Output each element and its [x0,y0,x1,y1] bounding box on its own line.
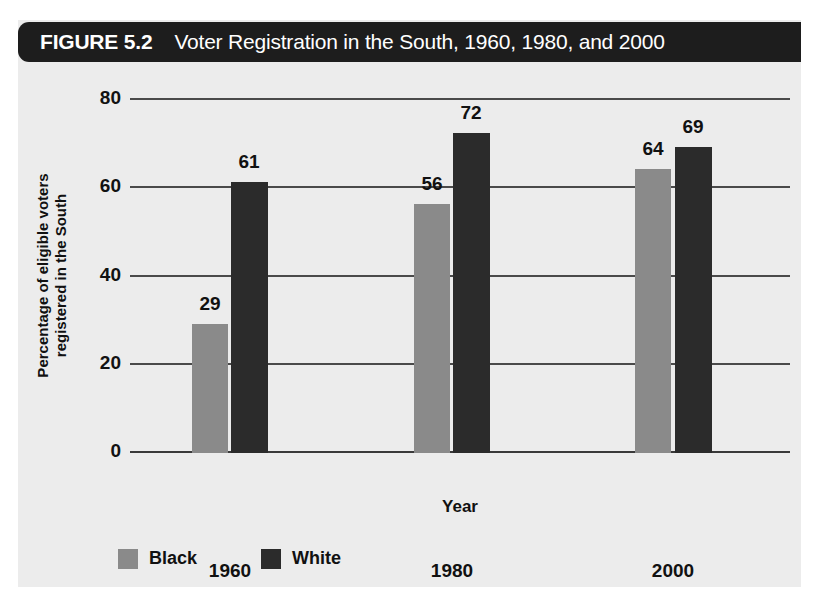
bar-label-2000-white: 69 [682,116,703,138]
bar-2000-black [635,169,671,453]
bar-1960-white [231,182,268,453]
x-tick-label-1980: 1980 [431,560,473,582]
bar-label-1960-white: 61 [238,151,259,173]
bar-1960-black [192,324,228,453]
y-tick-label-80: 80 [100,87,121,109]
y-tick-label-0: 0 [110,440,121,462]
figure-title-bar: FIGURE 5.2 Voter Registration in the Sou… [18,22,801,62]
legend-label-white: White [292,548,341,569]
legend-swatch-white [261,549,281,569]
legend-item-white: White [261,548,341,569]
bar-1980-black [414,204,450,453]
bar-label-1980-black: 56 [421,173,442,195]
y-axis-title: Percentage of eligible voters registered… [30,98,74,453]
chart-legend: Black White [118,548,405,569]
x-tick-label-2000: 2000 [652,560,694,582]
figure-title: Voter Registration in the South, 1960, 1… [174,30,664,54]
y-tick-label-60: 60 [100,175,121,197]
bar-1980-white [453,133,490,453]
legend-label-black: Black [149,548,197,569]
figure-number: FIGURE 5.2 [40,30,152,54]
plot-area: 80 60 40 20 0 29 61 1960 56 72 1980 64 6… [130,98,790,453]
y-tick-label-40: 40 [100,264,121,286]
gridline-80: 80 [130,98,790,100]
y-axis-title-line-1: Percentage of eligible voters [34,173,52,377]
legend-swatch-black [118,549,138,569]
y-tick-label-20: 20 [100,352,121,374]
bar-2000-white [675,147,712,453]
legend-item-black: Black [118,548,197,569]
bar-label-1980-white: 72 [460,102,481,124]
figure-container: FIGURE 5.2 Voter Registration in the Sou… [0,0,821,605]
bar-label-1960-black: 29 [199,293,220,315]
y-axis-title-line-2: registered in the South [52,194,70,357]
bar-label-2000-black: 64 [642,138,663,160]
x-axis-title: Year [130,497,790,517]
